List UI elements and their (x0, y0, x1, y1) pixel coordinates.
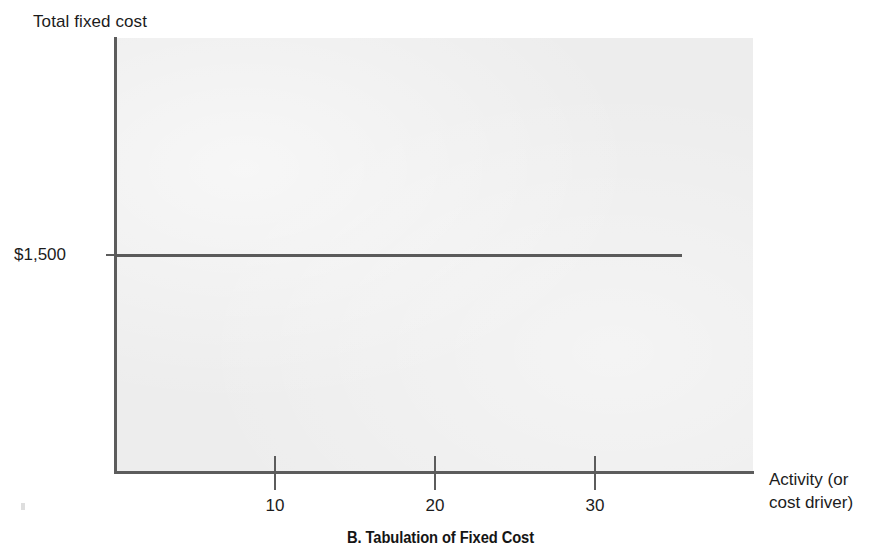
figure-caption: B. Tabulation of Fixed Cost (35, 529, 846, 547)
fixed-cost-chart-figure: Total fixed cost $1,500 10 20 30 Activit… (0, 0, 881, 555)
y-axis-tick-label-1500: $1,500 (14, 244, 66, 266)
y-axis-title: Total fixed cost (33, 11, 147, 32)
x-axis-title: Activity (or cost driver) (769, 468, 853, 514)
x-axis-tick-10 (274, 456, 276, 490)
x-axis-title-line-1: Activity (or (769, 468, 853, 491)
x-axis-tick-label-30: 30 (565, 495, 625, 516)
scan-artifact-speck (21, 503, 25, 510)
fixed-cost-series-line (115, 254, 682, 257)
x-axis-title-line-2: cost driver) (769, 491, 853, 514)
x-axis-tick-label-20: 20 (405, 495, 465, 516)
x-axis-tick-20 (434, 456, 436, 490)
x-axis-tick-30 (594, 456, 596, 490)
x-axis-tick-label-10: 10 (245, 495, 305, 516)
